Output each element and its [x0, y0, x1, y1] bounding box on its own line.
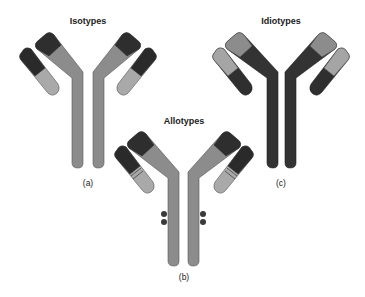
- heavy-chain-left: [35, 33, 83, 168]
- allotype-dot: [200, 211, 206, 217]
- heavy-chain-right: [188, 132, 241, 266]
- antibody-diagram: Isotypes (a) Allotypes: [0, 0, 365, 297]
- heavy-chain-left: [127, 132, 179, 266]
- panel-label: (b): [179, 272, 190, 282]
- panel-title: Isotypes: [70, 16, 107, 26]
- heavy-chain-right: [285, 33, 337, 168]
- allotype-dot: [200, 219, 206, 225]
- allotype-dot: [161, 211, 167, 217]
- panel-label: (c): [276, 178, 286, 188]
- panel-title: Allotypes: [164, 116, 205, 126]
- panel-label: (a): [83, 178, 94, 188]
- panel-title: Idiotypes: [261, 16, 301, 26]
- allotype-dot: [161, 219, 167, 225]
- panel-allotypes: Allotypes (b): [115, 116, 254, 282]
